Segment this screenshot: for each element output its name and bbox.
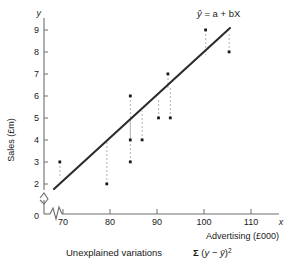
caption-formula: Σ (y − ȳ)2 — [193, 247, 232, 259]
y-tick-label-4: 4 — [34, 135, 39, 145]
data-point — [105, 183, 108, 186]
data-point — [58, 161, 61, 164]
x-axis-title: Advertising (£000) — [206, 231, 279, 241]
data-point — [167, 73, 170, 76]
chart-figure: 9 8 7 6 5 4 3 2 0 y Sales (£m) — [0, 0, 287, 262]
x-tick-label-80: 80 — [105, 217, 115, 227]
caption-label: Unexplained variations — [66, 247, 162, 258]
data-point — [228, 51, 231, 54]
chart-caption: Unexplained variations Σ (y − ȳ)2 — [66, 247, 232, 259]
y-tick-label-8: 8 — [34, 47, 39, 57]
x-tick-label-110: 110 — [244, 217, 258, 227]
y-tick-label-2: 2 — [34, 179, 39, 189]
x-tick-label-70: 70 — [58, 217, 68, 227]
y-tick-label-0: 0 — [34, 211, 39, 221]
y-tick-label-9: 9 — [34, 25, 39, 35]
data-point — [169, 117, 172, 120]
x-tick-label-90: 90 — [152, 217, 162, 227]
regression-equation-annotation: ŷ = a + bX — [196, 8, 241, 19]
y-tick-label-6: 6 — [34, 91, 39, 101]
x-tick-label-100: 100 — [196, 217, 211, 227]
data-point — [141, 139, 144, 142]
y-axis-symbol: y — [36, 8, 42, 18]
data-point — [204, 29, 207, 32]
data-point — [157, 117, 160, 120]
data-point — [129, 161, 132, 164]
y-tick-label-7: 7 — [34, 69, 39, 79]
y-axis-title: Sales (£m) — [6, 118, 16, 162]
scatter-plot-svg: 9 8 7 6 5 4 3 2 0 y Sales (£m) — [0, 0, 287, 262]
data-point — [129, 95, 132, 98]
data-point — [129, 139, 132, 142]
y-tick-label-3: 3 — [34, 157, 39, 167]
x-axis-symbol: x — [278, 217, 284, 227]
y-tick-label-5: 5 — [34, 113, 39, 123]
